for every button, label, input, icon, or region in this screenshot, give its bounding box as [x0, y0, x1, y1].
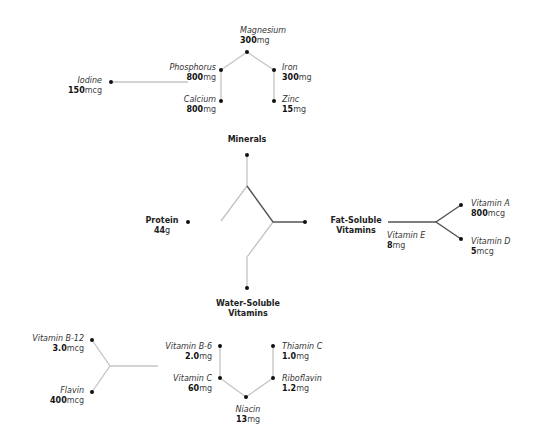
node-dot-calcium: [219, 99, 223, 103]
node-dot-flavin: [90, 390, 94, 394]
diagram-edges: [0, 0, 537, 439]
label-niacin: Niacin 13mg: [226, 405, 270, 424]
node-dot-vitamin-a: [459, 203, 463, 207]
label-vitamin-a: Vitamin A 800mcg: [471, 199, 510, 218]
group-minerals: Minerals: [217, 135, 277, 145]
label-calcium: Calcium 800mg: [160, 95, 216, 114]
label-iodine: Iodine 150mcg: [50, 76, 102, 95]
label-thiamin: Thiamin C 1.0mg: [282, 342, 322, 361]
node-dot-vitamin-b6: [218, 344, 222, 348]
label-vitamin-c: Vitamin C 60mg: [148, 374, 212, 393]
group-water-soluble-vitamins: Water-Soluble Vitamins: [212, 299, 284, 318]
node-dot-water-soluble: [245, 286, 249, 290]
label-vitamin-d: Vitamin D 5mcg: [471, 237, 511, 256]
label-iron: Iron 300mg: [282, 63, 312, 82]
group-protein: Protein 44g: [142, 216, 182, 235]
node-dot-iron: [272, 68, 276, 72]
node-dot-zinc: [272, 99, 276, 103]
label-phosphorus: Phosphorus 800mg: [160, 63, 216, 82]
node-dot-iodine: [109, 80, 113, 84]
label-magnesium: Magnesium 300mg: [240, 26, 286, 45]
nutrient-tree-diagram: Magnesium 300mg Phosphorus 800mg Iron 30…: [0, 0, 537, 439]
group-fat-soluble-vitamins: Fat-Soluble Vitamins: [326, 216, 386, 235]
node-dot-vitamin-b12: [90, 338, 94, 342]
node-dot-minerals: [245, 153, 249, 157]
node-dot-riboflavin: [271, 376, 275, 380]
node-dot-phosphorus: [219, 68, 223, 72]
node-dot-vitamin-c: [218, 376, 222, 380]
label-vitamin-b12: Vitamin B-12 3.0mcg: [20, 334, 84, 353]
label-vitamin-e: Vitamin E 8mg: [387, 231, 425, 250]
label-riboflavin: Riboflavin 1.2mg: [282, 374, 322, 393]
node-dot-fat-soluble: [303, 220, 307, 224]
label-vitamin-b6: Vitamin B-6 2.0mg: [148, 342, 212, 361]
node-dot-magnesium: [245, 50, 249, 54]
node-dot-protein: [186, 220, 190, 224]
node-dot-niacin: [244, 395, 248, 399]
node-dot-thiamin: [271, 344, 275, 348]
node-dot-vitamin-d: [459, 237, 463, 241]
label-flavin: Flavin 400mcg: [20, 386, 84, 405]
label-zinc: Zinc 15mg: [282, 95, 306, 114]
